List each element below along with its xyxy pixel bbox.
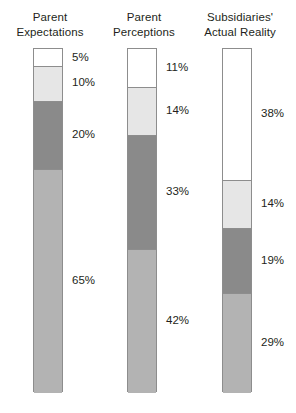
segment-value-label: 14%: [166, 104, 189, 116]
bar-segment-light-gray: [128, 87, 156, 135]
stacked-bar: [127, 48, 157, 392]
bar-segment-medium-gray: [128, 249, 156, 393]
segment-value-label: 65%: [72, 274, 95, 286]
segment-divider: [34, 101, 62, 102]
segment-value-label: 10%: [72, 76, 95, 88]
bar-segment-white: [128, 49, 156, 87]
bar-segment-dark-gray: [34, 101, 62, 170]
segment-divider: [128, 87, 156, 88]
stacked-bar: [222, 48, 252, 392]
column-title: Parent Perceptions: [94, 10, 194, 39]
segment-value-label: 19%: [261, 254, 284, 266]
column-title: Parent Expectations: [0, 10, 100, 39]
segment-value-label: 20%: [72, 128, 95, 140]
chart-column-parent-expectations: Parent Expectations 5% 10% 20% 65%: [0, 0, 100, 413]
bar-segment-white: [34, 49, 62, 66]
bar-segment-light-gray: [223, 180, 251, 228]
segment-divider: [128, 135, 156, 136]
segment-divider: [34, 169, 62, 170]
segment-value-label: 29%: [261, 336, 284, 348]
segment-divider: [128, 249, 156, 250]
segment-value-label: 38%: [261, 107, 284, 119]
stacked-bar: [33, 48, 63, 392]
segment-divider: [223, 293, 251, 294]
column-title: Subsidiaries' Actual Reality: [188, 10, 292, 39]
segment-divider: [223, 228, 251, 229]
segment-value-label: 14%: [261, 197, 284, 209]
chart-column-parent-perceptions: Parent Perceptions 11% 14% 33% 42%: [94, 0, 194, 413]
bar-segment-dark-gray: [128, 135, 156, 249]
bar-segment-dark-gray: [223, 228, 251, 293]
bar-segment-medium-gray: [223, 293, 251, 393]
segment-value-label: 11%: [166, 61, 188, 73]
segment-value-label: 33%: [166, 185, 189, 197]
chart-column-subsidiaries-actual-reality: Subsidiaries' Actual Reality 38% 14% 19%…: [188, 0, 296, 413]
segment-divider: [34, 66, 62, 67]
segment-divider: [223, 180, 251, 181]
bar-segment-medium-gray: [34, 169, 62, 393]
bar-segment-light-gray: [34, 66, 62, 100]
bar-segment-white: [223, 49, 251, 180]
stacked-bar-chart: Parent Expectations 5% 10% 20% 65% Paren…: [0, 0, 296, 413]
segment-value-label: 42%: [166, 314, 189, 326]
segment-value-label: 5%: [72, 51, 89, 63]
